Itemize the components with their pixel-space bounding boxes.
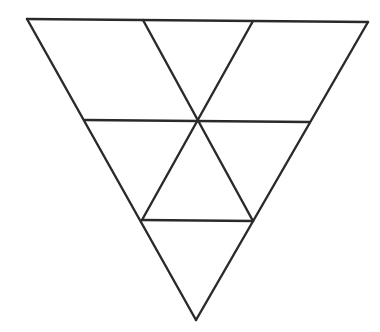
diagram-edges: [27, 19, 368, 320]
outer-right-edge: [196, 22, 368, 320]
outer-top-edge: [27, 19, 368, 22]
triangle-diagram: [0, 0, 380, 332]
lower-horizontal-line: [142, 220, 253, 221]
